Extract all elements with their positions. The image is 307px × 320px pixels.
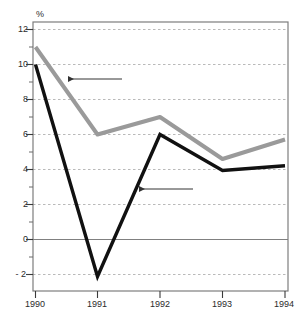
chart-plot-svg [0,0,307,320]
plot-area-background [33,22,288,291]
x-axis-ticks [36,291,286,298]
chart-container: % 12 10 8 6 4 2 0 - 2 1990 1991 1992 199… [0,0,307,320]
